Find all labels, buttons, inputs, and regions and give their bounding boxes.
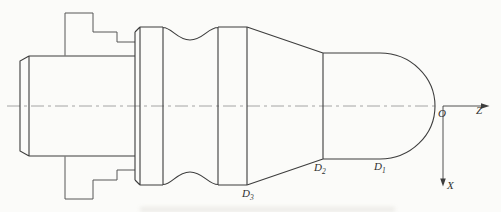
chuck-jaw-bottom <box>65 157 135 200</box>
z-axis <box>443 103 490 109</box>
label-z-axis: Z <box>476 104 483 116</box>
diagram-canvas: D3 D2 D1 O Z X <box>0 0 501 212</box>
label-d1: D1 <box>373 160 386 175</box>
lathe-part-coordinate-diagram: D3 D2 D1 O Z X <box>0 0 501 212</box>
label-origin: O <box>438 107 446 119</box>
label-d3: D3 <box>241 187 254 202</box>
chuck-jaw-top <box>65 13 135 56</box>
label-d2: D2 <box>313 161 326 176</box>
label-x-axis: X <box>446 179 455 191</box>
x-axis-arrow-icon <box>440 179 446 187</box>
chuck-jaws <box>65 13 135 199</box>
z-axis-arrow-icon <box>481 103 490 109</box>
cropped-caption-smudge <box>140 207 395 212</box>
